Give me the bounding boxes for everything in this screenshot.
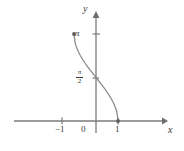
x-axis-label: x [168,125,172,135]
x-axis [14,118,168,125]
x-tick-label-one: 1 [115,125,120,134]
fraction-numerator: π [78,69,82,76]
x-tick-label-negative-one: −1 [55,125,65,134]
tick-marks [62,34,118,125]
y-axis [93,11,100,133]
y-tick-label-pi: π [75,29,80,38]
y-axis-label: y [83,4,87,14]
fraction-denominator: 2 [78,78,82,85]
y-tick-label-pi-over-two: π 2 [76,69,83,85]
y-axis-arrowhead [93,11,100,18]
plot-canvas [0,0,184,151]
origin-label: 0 [81,125,86,134]
arccos-graph-figure: y x π π 2 −1 0 1 [0,0,184,151]
curve-endpoint-right [116,119,120,123]
